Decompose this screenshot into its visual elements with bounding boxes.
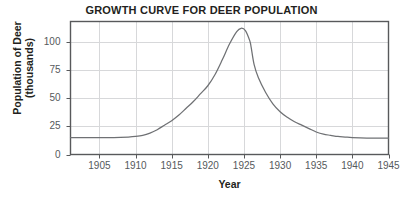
x-tick-label: 1915 [152,161,192,171]
x-tick-label: 1935 [296,161,336,171]
gridlines [71,22,389,155]
x-tick-label: 1940 [332,161,372,171]
y-tick-label: 50 [33,93,61,103]
y-tick-label: 0 [33,150,61,160]
data-line-deer-population [71,28,389,138]
x-tick-label: 1910 [116,161,156,171]
chart-figure: GROWTH CURVE FOR DEER POPULATION Populat… [0,0,403,198]
x-tick-label: 1945 [369,161,403,171]
x-tick-label: 1920 [188,161,228,171]
x-tick-label: 1930 [260,161,300,171]
y-tick-label: 75 [33,65,61,75]
y-tick-label: 25 [33,121,61,131]
plot-frame [71,22,389,155]
y-tick-label: 100 [33,37,61,47]
axis-tick-marks [67,43,390,159]
x-tick-label: 1925 [224,161,264,171]
x-tick-label: 1905 [79,161,119,171]
